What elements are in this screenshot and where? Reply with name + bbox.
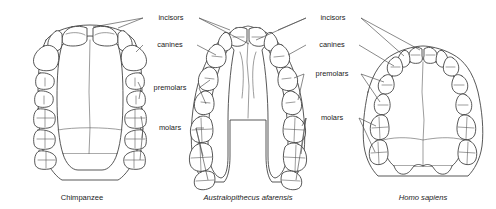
leader-left-incisors-to-chimp-2 [93,18,143,27]
leader-right-incisors-to-homo-2 [361,18,420,50]
leader-left-incisors-to-chimp [118,18,143,28]
chimp-molar-right-1 [125,109,147,129]
leader-left-incisors-to-afar [199,18,230,30]
chimp-canine-left [33,45,58,71]
specimen-homo-sapiens [363,46,483,176]
afar-premolar-left-1 [198,67,218,91]
leader-right-incisors-to-afar-2 [256,18,306,40]
caption-australopithecus-afarensis: Australopithecus afarensis [202,193,292,202]
label-right-incisors: incisors [320,13,345,22]
label-left-molars: molars [159,123,181,132]
chimp-molar-left-1 [34,109,56,129]
label-left-canines: canines [157,40,183,49]
afar-canine-left [206,44,226,67]
leader-right-canines-to-afar [288,45,306,55]
chimp-molar-right-2 [125,130,147,150]
leader-right-canines-to-homo [359,45,394,66]
afar-premolar-right-1 [278,67,298,91]
label-right-canines: canines [319,40,345,49]
chimp-molar-left-2 [34,130,56,150]
chimp-posterior-border [63,154,117,170]
dental-arcade-figure: incisors canines premolars molars inciso… [0,0,496,209]
caption-chimpanzee: Chimpanzee [61,193,104,202]
figure-svg: incisors canines premolars molars inciso… [0,0,496,209]
specimen-chimpanzee [33,25,146,180]
label-left-premolars: premolars [154,83,187,92]
chimp-canine-right [121,45,146,71]
afar-canine-right [270,44,290,67]
label-right-premolars: premolars [316,69,349,78]
label-right-molars: molars [321,113,343,122]
label-left-incisors: incisors [158,13,183,22]
caption-homo-sapiens: Homo sapiens [399,193,448,202]
